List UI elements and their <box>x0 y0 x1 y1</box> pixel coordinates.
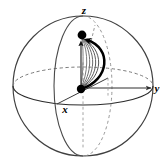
bloch-sphere-figure: z x y <box>0 0 167 163</box>
y-axis-label: y <box>153 82 160 94</box>
z-axis-label: z <box>81 4 87 16</box>
origin-state-point <box>77 85 85 93</box>
axis-labels-group: z x y <box>61 4 159 115</box>
target-state-point <box>78 31 87 40</box>
bloch-sphere-canvas: z x y <box>0 0 167 163</box>
x-axis-label: x <box>61 103 68 115</box>
